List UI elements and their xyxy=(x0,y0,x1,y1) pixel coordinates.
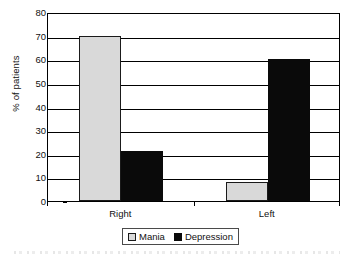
x-axis: RightLeft xyxy=(47,202,340,224)
bar-depression-left xyxy=(268,59,310,201)
legend-swatch-mania-icon xyxy=(128,233,136,241)
x-axis-tick-mark xyxy=(47,202,48,206)
bar-mania-right xyxy=(79,36,121,201)
y-axis-tick-label: 0 xyxy=(20,197,46,207)
bar-series-container xyxy=(48,14,339,201)
bar-chart-figure: % of patients 01020304050607080 RightLef… xyxy=(0,0,354,259)
y-axis-tick-labels: 01020304050607080 xyxy=(20,0,46,259)
chart-legend: ManiaDepression xyxy=(122,228,239,245)
y-axis-tick-label: 20 xyxy=(20,150,46,160)
legend-label: Mania xyxy=(139,232,165,242)
legend-entry-mania: Mania xyxy=(128,232,165,242)
y-axis-title: % of patients xyxy=(10,50,21,118)
x-axis-tick-mark xyxy=(339,202,340,206)
bar-mania-left xyxy=(226,182,268,201)
y-axis-tick-label: 80 xyxy=(20,8,46,18)
x-axis-category-label-right: Right xyxy=(109,208,131,219)
y-axis-tick-label: 40 xyxy=(20,103,46,113)
bar-depression-right xyxy=(121,151,163,201)
y-axis-tick-label: 10 xyxy=(20,174,46,184)
x-axis-category-label-left: Left xyxy=(259,208,275,219)
x-axis-tick-mark xyxy=(194,202,195,206)
y-axis-tick-label: 30 xyxy=(20,126,46,136)
y-axis-tick-label: 50 xyxy=(20,79,46,89)
y-axis-tick-label: 70 xyxy=(20,32,46,42)
scan-artifact xyxy=(14,251,340,254)
legend-label: Depression xyxy=(185,232,233,242)
plot-area xyxy=(47,13,340,202)
legend-swatch-depression-icon xyxy=(174,233,182,241)
legend-entry-depression: Depression xyxy=(174,232,233,242)
y-axis-tick-label: 60 xyxy=(20,56,46,66)
